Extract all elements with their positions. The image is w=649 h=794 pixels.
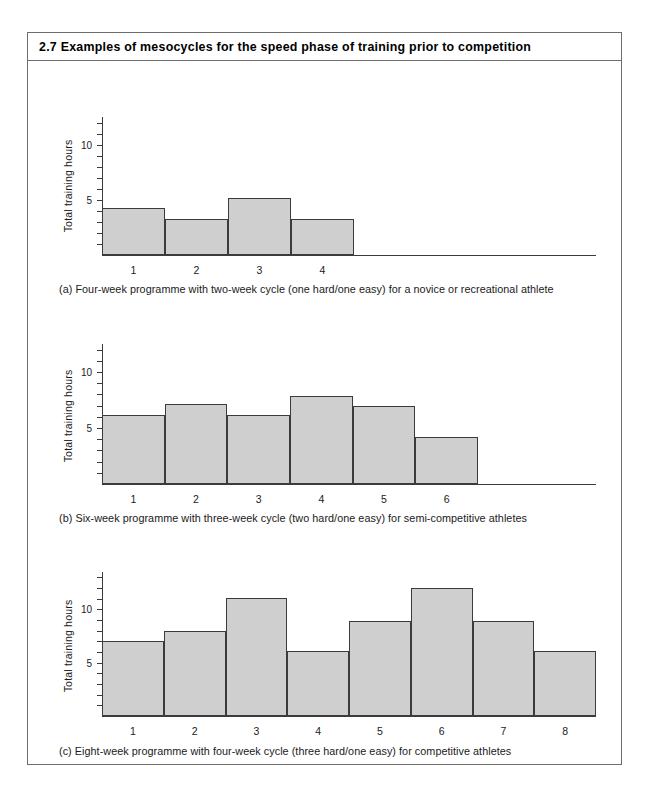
x-axis-tick-label: 6: [444, 493, 450, 505]
y-axis-tick: [97, 577, 103, 578]
chart-panel-c: Total training hours51012345678(c) Eight…: [28, 534, 623, 766]
bar: [226, 598, 288, 716]
x-axis-tick-label: 1: [131, 264, 137, 276]
y-axis-tick: [97, 383, 103, 384]
y-axis-tick: [97, 350, 103, 351]
x-axis-tick-label: 8: [562, 725, 568, 737]
y-axis-tick: [97, 123, 103, 124]
x-axis: [102, 716, 596, 717]
chart-caption: (a) Four-week programme with two-week cy…: [59, 283, 554, 295]
chart-panel-a: Total training hours5101234(a) Four-week…: [28, 61, 623, 296]
x-axis-tick-label: 4: [315, 725, 321, 737]
bar: [227, 415, 290, 484]
bar: [102, 208, 165, 255]
y-axis-tick: [97, 361, 103, 362]
figure-title: 2.7 Examples of mesocycles for the speed…: [28, 40, 531, 54]
y-axis-tick-label: 5: [68, 423, 92, 434]
x-axis-tick-label: 2: [192, 725, 198, 737]
y-axis-tick: [97, 134, 103, 135]
y-axis-tick: [97, 189, 103, 190]
y-axis-tick: [97, 620, 103, 621]
x-axis: [102, 255, 596, 256]
x-axis-tick-label: 4: [320, 264, 326, 276]
x-axis-tick-label: 1: [130, 725, 136, 737]
y-axis-label: Total training hours: [62, 370, 74, 463]
x-axis-tick-label: 5: [381, 493, 387, 505]
bar: [165, 219, 228, 255]
x-axis-tick-label: 5: [377, 725, 383, 737]
x-axis-tick-label: 3: [253, 725, 259, 737]
y-axis-tick: [97, 145, 103, 146]
x-axis-tick-label: 4: [318, 493, 324, 505]
y-axis-tick-label: 5: [68, 657, 92, 668]
y-axis-tick-label: 10: [68, 139, 92, 150]
x-axis: [102, 484, 596, 485]
x-axis-tick-label: 3: [257, 264, 263, 276]
figure-title-bar: 2.7 Examples of mesocycles for the speed…: [28, 33, 621, 61]
y-axis-tick: [97, 599, 103, 600]
chart-caption: (b) Six-week programme with three-week c…: [59, 512, 527, 524]
chart-caption: (c) Eight-week programme with four-week …: [59, 745, 511, 757]
x-axis-tick-label: 2: [194, 264, 200, 276]
y-axis-tick: [97, 394, 103, 395]
x-axis-tick-label: 1: [130, 493, 136, 505]
bar: [353, 406, 416, 484]
y-axis-tick: [97, 167, 103, 168]
bar: [165, 404, 228, 484]
bar: [415, 437, 478, 484]
chart-panel-b: Total training hours510123456(b) Six-wee…: [28, 296, 623, 534]
x-axis-tick-label: 3: [256, 493, 262, 505]
y-axis-tick: [97, 588, 103, 589]
bar: [473, 621, 535, 716]
y-axis-tick: [97, 406, 103, 407]
y-axis-tick: [97, 156, 103, 157]
y-axis-tick: [97, 609, 103, 610]
bar: [291, 219, 354, 255]
x-axis-tick-label: 7: [500, 725, 506, 737]
bar: [411, 588, 473, 716]
y-axis-tick: [97, 200, 103, 201]
bar: [102, 641, 164, 716]
bar: [287, 651, 349, 716]
bar: [534, 651, 596, 716]
bar: [349, 621, 411, 716]
y-axis-label: Total training hours: [62, 140, 74, 233]
figure-box: 2.7 Examples of mesocycles for the speed…: [27, 32, 622, 765]
x-axis-tick-label: 6: [439, 725, 445, 737]
bar: [228, 198, 291, 255]
bar: [290, 396, 353, 484]
bar: [102, 415, 165, 484]
y-axis-tick: [97, 372, 103, 373]
y-axis-tick-label: 5: [68, 194, 92, 205]
y-axis-tick: [97, 631, 103, 632]
y-axis-tick-label: 10: [68, 367, 92, 378]
x-axis-tick-label: 2: [193, 493, 199, 505]
bar: [164, 631, 226, 716]
y-axis-tick: [97, 178, 103, 179]
y-axis-tick-label: 10: [68, 604, 92, 615]
